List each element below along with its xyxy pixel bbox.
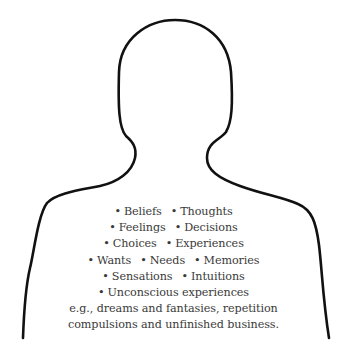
- list-line: •Unconscious experiences: [0, 285, 347, 301]
- bullet-icon: •: [109, 221, 116, 234]
- item-label: Sensations: [112, 270, 173, 283]
- list-item: •Sensations: [102, 270, 172, 283]
- list-item: •Feelings: [109, 221, 165, 234]
- bullet-icon: •: [182, 270, 189, 283]
- bullet-icon: •: [171, 205, 178, 218]
- list-item: •Decisions: [175, 221, 238, 234]
- bullet-icon: •: [166, 237, 173, 250]
- list-item: •Wants: [88, 254, 132, 267]
- bullet-icon: •: [103, 237, 110, 250]
- note-line: e.g., dreams and fantasies, repetition: [0, 301, 347, 317]
- bullet-icon: •: [140, 254, 147, 267]
- list-line: •Feelings•Decisions: [0, 220, 347, 236]
- human-silhouette-figure: •Beliefs•Thoughts •Feelings•Decisions •C…: [0, 0, 347, 362]
- bullet-icon: •: [114, 205, 121, 218]
- list-item: •Choices: [103, 237, 157, 250]
- list-item: •Unconscious experiences: [98, 286, 249, 299]
- list-item: •Intuitions: [182, 270, 245, 283]
- note-line: compulsions and unfinished business.: [0, 317, 347, 333]
- item-label: Unconscious experiences: [108, 286, 249, 299]
- item-label: Intuitions: [191, 270, 245, 283]
- list-line: •Choices•Experiences: [0, 236, 347, 252]
- list-item: •Memories: [194, 254, 259, 267]
- list-line: •Beliefs•Thoughts: [0, 204, 347, 220]
- list-item: •Thoughts: [171, 205, 233, 218]
- list-item: •Needs: [140, 254, 185, 267]
- list-line: •Wants•Needs•Memories: [0, 253, 347, 269]
- item-label: Feelings: [119, 221, 166, 234]
- item-label: Wants: [97, 254, 131, 267]
- list-line: •Sensations•Intuitions: [0, 269, 347, 285]
- experience-list: •Beliefs•Thoughts •Feelings•Decisions •C…: [0, 204, 347, 334]
- item-label: Choices: [113, 237, 157, 250]
- item-label: Thoughts: [180, 205, 232, 218]
- item-label: Needs: [150, 254, 185, 267]
- item-label: Memories: [204, 254, 260, 267]
- item-label: Beliefs: [124, 205, 162, 218]
- bullet-icon: •: [98, 286, 105, 299]
- bullet-icon: •: [175, 221, 182, 234]
- list-item: •Beliefs: [114, 205, 161, 218]
- item-label: Decisions: [184, 221, 238, 234]
- bullet-icon: •: [88, 254, 95, 267]
- bullet-icon: •: [194, 254, 201, 267]
- bullet-icon: •: [102, 270, 109, 283]
- item-label: Experiences: [175, 237, 244, 250]
- list-item: •Experiences: [166, 237, 244, 250]
